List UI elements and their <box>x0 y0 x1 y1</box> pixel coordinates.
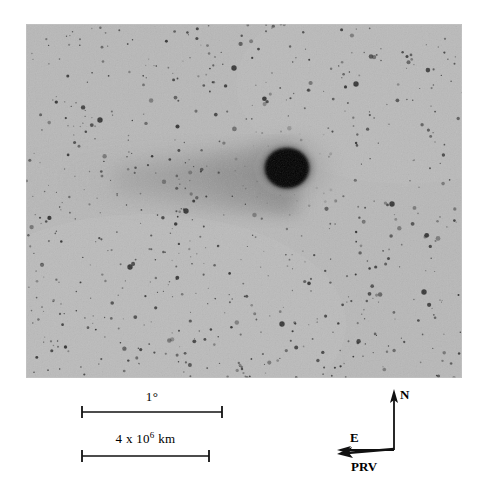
scalebar-angular-rule <box>78 405 226 419</box>
compass-label-east: E <box>350 431 359 445</box>
page-text-bleed <box>0 491 479 503</box>
scalebar-angular-value: 1° <box>146 389 158 404</box>
comet-photographic-plate <box>26 24 462 378</box>
scalebar-angular: 1° <box>78 389 226 421</box>
scalebar-linear: 4 x 106 km <box>78 431 213 465</box>
page-text-bleed-line <box>150 491 207 503</box>
plate-image <box>26 24 462 378</box>
comet-figure: 1° 4 x 106 km <box>0 0 479 503</box>
north-arrow <box>390 389 398 450</box>
compass-label-north: N <box>400 388 409 402</box>
scalebar-linear-label: 4 x 106 km <box>78 431 213 446</box>
scalebar-linear-mantissa: 4 x 10 <box>116 431 150 446</box>
scalebar-linear-unit: km <box>155 431 176 446</box>
compass-label-prv: PRV <box>351 460 377 474</box>
scalebar-linear-rule <box>78 449 213 463</box>
orientation-compass: N E PRV <box>330 386 420 482</box>
scalebar-angular-label: 1° <box>78 389 226 404</box>
